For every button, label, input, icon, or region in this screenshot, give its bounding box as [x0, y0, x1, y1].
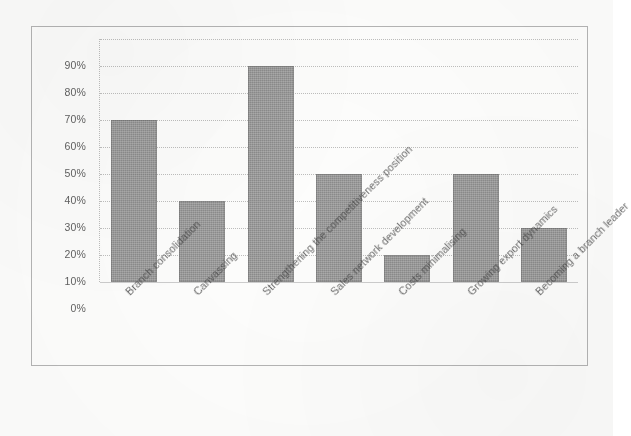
- chart-frame: 90%80%70%60%50%40%30%20%10%0%: [31, 26, 588, 366]
- bar-slot: [179, 39, 225, 282]
- y-tick-label: 0%: [70, 302, 86, 314]
- y-tick-label: 30%: [64, 221, 86, 233]
- bar-slot: [111, 39, 157, 282]
- bar-slot: [248, 39, 294, 282]
- y-tick-label: 90%: [64, 59, 86, 71]
- bar[interactable]: [111, 120, 157, 282]
- y-tick-label: 70%: [64, 113, 86, 125]
- y-tick-label: 20%: [64, 248, 86, 260]
- y-tick-label: 80%: [64, 86, 86, 98]
- y-tick-label: 40%: [64, 194, 86, 206]
- bar-slot: [316, 39, 362, 282]
- bar-slot: [521, 39, 567, 282]
- y-axis-labels: 90%80%70%60%50%40%30%20%10%0%: [32, 53, 94, 393]
- bar[interactable]: [248, 66, 294, 282]
- bar-slot: [453, 39, 499, 282]
- y-tick-label: 60%: [64, 140, 86, 152]
- y-tick-label: 50%: [64, 167, 86, 179]
- y-tick-label: 10%: [64, 275, 86, 287]
